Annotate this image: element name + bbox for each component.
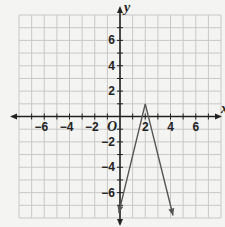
y-tick-label: 6 <box>108 33 115 47</box>
x-tick-label: 4 <box>167 120 174 134</box>
y-tick-label: −6 <box>101 186 115 200</box>
x-tick-label: 2 <box>142 120 149 134</box>
x-axis-label: x <box>220 101 225 116</box>
y-axis-up-arrow-icon <box>117 6 123 13</box>
x-tick-label: −4 <box>60 120 74 134</box>
y-tick-label: −4 <box>101 160 115 174</box>
x-axis-left-arrow-icon <box>10 114 17 120</box>
x-tick-label: −2 <box>85 120 99 134</box>
x-tick-label: 6 <box>192 120 199 134</box>
origin-label: O <box>107 119 117 134</box>
y-axis-label: y <box>122 0 131 15</box>
y-tick-label: −2 <box>101 135 115 149</box>
x-tick-label: −6 <box>34 120 48 134</box>
y-axis-down-arrow-icon <box>117 219 123 226</box>
coordinate-plane: −6−4−2246642−2−4−6 x y O <box>0 0 225 227</box>
y-tick-label: 4 <box>108 59 115 73</box>
y-tick-label: 2 <box>108 84 115 98</box>
